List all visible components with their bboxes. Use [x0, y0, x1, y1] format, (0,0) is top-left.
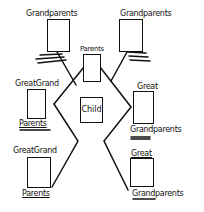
great-grand-parents-lower-left-top-label: GreatGrand — [13, 146, 57, 155]
grandparents-left-box — [47, 19, 70, 52]
great-grandparents-upper-right-top-label: Great — [137, 82, 158, 91]
grandparents-right-label: Grandparents — [120, 9, 171, 18]
great-grand-parents-lower-left-box — [27, 157, 51, 188]
great-grand-parents-lower-left-bottom-label: Parents — [22, 189, 50, 198]
great-grandparents-lower-right-top-label: Great — [131, 149, 152, 158]
child-label: Child — [81, 105, 102, 114]
grandparents-right-box — [119, 19, 143, 52]
child-box: Child — [80, 97, 103, 123]
great-grand-parents-upper-left-top-label: GreatGrand — [15, 79, 59, 88]
grandparents-left-label: Grandparents — [26, 9, 77, 18]
parents-label: Parents — [80, 45, 104, 54]
great-grand-parents-upper-left-box — [27, 89, 46, 119]
parents-box — [83, 54, 101, 82]
great-grandparents-upper-right-box — [133, 91, 154, 124]
great-grand-parents-upper-left-bottom-label: Parents — [19, 119, 47, 128]
great-grandparents-lower-right-box — [130, 158, 154, 187]
family-tree-diagram: Grandparents Grandparents Parents Child … — [0, 0, 204, 212]
great-grandparents-upper-right-bottom-label: Grandparents — [130, 125, 181, 134]
great-grandparents-lower-right-bottom-label: Grandparents — [132, 189, 183, 198]
